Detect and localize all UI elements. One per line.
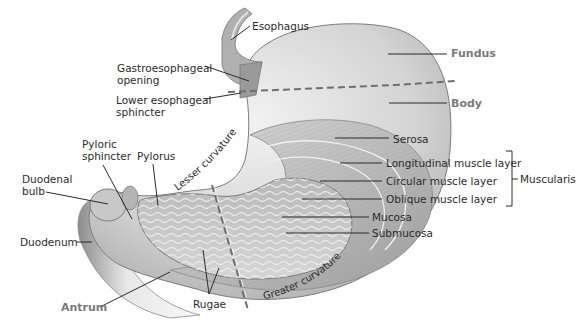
body-region-label: Body [451, 97, 482, 110]
oblique-muscle-layer-label: Oblique muscle layer [386, 193, 497, 205]
muscularis-label: Muscularis [520, 173, 576, 185]
lower-esophageal-sphincter-label-line2: sphincter [116, 106, 165, 118]
circular-muscle-layer-label: Circular muscle layer [386, 175, 497, 187]
fundus-region-label: Fundus [451, 47, 496, 60]
stomach-anatomy-diagram: Lesser curvature Greater curvature Esoph… [0, 0, 581, 327]
gastroesophageal-opening-label-line1: Gastroesophageal [117, 62, 212, 74]
serosa-label: Serosa [393, 133, 429, 145]
mucosa-label: Mucosa [372, 211, 412, 223]
pyloric-sphincter-label-line2: sphincter [82, 150, 131, 162]
esophagus-label: Esophagus [252, 20, 309, 32]
pyloric-sphincter-shape [122, 186, 138, 210]
antrum-region-label: Antrum [61, 301, 107, 314]
lower-esophageal-sphincter-label-line1: Lower esophageal [116, 94, 211, 106]
longitudinal-muscle-layer-label: Longitudinal muscle layer [386, 157, 521, 169]
duodenal-bulb-label-line2: bulb [22, 185, 45, 197]
duodenal-bulb-shape [90, 189, 126, 221]
pyloric-sphincter-label-line1: Pyloric [82, 138, 117, 150]
rugae-label: Rugae [193, 298, 226, 310]
duodenum-label: Duodenum [20, 236, 78, 248]
gastroesophageal-opening-label-line2: opening [117, 74, 159, 86]
pylorus-label: Pylorus [137, 150, 175, 162]
submucosa-label: Submucosa [372, 227, 433, 239]
duodenal-bulb-label-line1: Duodenal [22, 173, 72, 185]
